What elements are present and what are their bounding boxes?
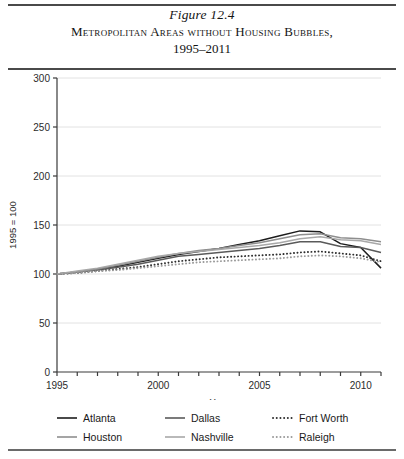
chart-legend: AtlantaDallasFort WorthHoustonNashvilleR… xyxy=(56,408,396,446)
legend-label: Dallas xyxy=(191,412,220,424)
x-tick-label: 2005 xyxy=(248,380,271,391)
x-axis-label: Year xyxy=(209,396,228,400)
legend-item-nashville[interactable]: Nashville xyxy=(164,431,272,443)
legend-swatch-solid xyxy=(56,413,78,423)
figure-title-block: Figure 12.4 Metropolitan Areas without H… xyxy=(0,6,404,57)
y-tick-label: 200 xyxy=(33,171,50,182)
legend-swatch-dotted xyxy=(272,413,294,423)
line-chart: 0501001502002503001995200020052010Year19… xyxy=(0,70,404,400)
figure-title-text: Metropolitan Areas without Housing Bubbl… xyxy=(0,23,404,40)
x-tick-label: 2000 xyxy=(147,380,170,391)
legend-label: Raleigh xyxy=(299,431,335,443)
y-tick-label: 100 xyxy=(33,269,50,280)
figure-year-range: 1995–2011 xyxy=(0,40,404,57)
series-line-raleigh xyxy=(57,255,381,274)
chart-plot-area: 0501001502002503001995200020052010Year19… xyxy=(0,70,404,400)
y-tick-label: 150 xyxy=(33,220,50,231)
y-tick-label: 250 xyxy=(33,122,50,133)
legend-swatch-solid xyxy=(164,413,186,423)
legend-item-houston[interactable]: Houston xyxy=(56,431,164,443)
x-tick-label: 2010 xyxy=(350,380,373,391)
y-tick-label: 0 xyxy=(44,367,50,378)
y-tick-label: 300 xyxy=(33,73,50,84)
legend-label: Fort Worth xyxy=(299,412,348,424)
legend-label: Nashville xyxy=(191,431,234,443)
legend-swatch-solid xyxy=(164,432,186,442)
legend-label: Atlanta xyxy=(83,412,116,424)
y-axis-label: 1995 = 100 xyxy=(7,201,18,249)
legend-swatch-dotted xyxy=(272,432,294,442)
series-line-houston xyxy=(57,234,381,274)
series-line-dallas xyxy=(57,242,381,274)
x-tick-label: 1995 xyxy=(46,380,69,391)
figure-container: Figure 12.4 Metropolitan Areas without H… xyxy=(0,0,404,459)
figure-number: Figure 12.4 xyxy=(0,6,404,23)
y-tick-label: 50 xyxy=(39,318,51,329)
legend-item-raleigh[interactable]: Raleigh xyxy=(272,431,390,443)
legend-item-fort-worth[interactable]: Fort Worth xyxy=(272,412,390,424)
legend-item-atlanta[interactable]: Atlanta xyxy=(56,412,164,424)
rule-bottom xyxy=(8,449,396,451)
legend-swatch-solid xyxy=(56,432,78,442)
legend-label: Houston xyxy=(83,431,122,443)
legend-item-dallas[interactable]: Dallas xyxy=(164,412,272,424)
